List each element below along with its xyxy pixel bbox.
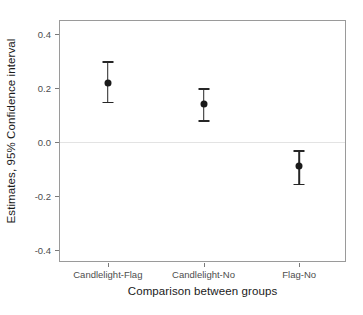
estimate-point (104, 79, 111, 86)
x-axis-title: Comparison between groups (59, 285, 346, 297)
x-tick-label: Flag-No (282, 269, 316, 280)
estimate-point (200, 101, 207, 108)
y-tick-label: 0.4 (11, 29, 51, 40)
estimate-point (296, 163, 303, 170)
y-tick-label: 0.2 (11, 83, 51, 94)
y-tick-label: -0.2 (11, 190, 51, 201)
y-tick-mark (55, 196, 59, 197)
x-tick-mark (204, 263, 205, 267)
x-tick-mark (299, 263, 300, 267)
y-tick-mark (55, 142, 59, 143)
y-tick-mark (55, 88, 59, 89)
x-tick-label: Candlelight-No (172, 269, 235, 280)
y-tick-mark (55, 250, 59, 251)
confidence-interval-chart: Estimates, 95% Confidence interval 0.40.… (0, 0, 363, 315)
errorbar-cap-lower (198, 120, 209, 122)
errorbar-cap-upper (294, 150, 305, 152)
y-tick-label: 0.0 (11, 137, 51, 148)
plot-panel: 0.40.20.0-0.2-0.4Candlelight-FlagCandlel… (59, 20, 346, 262)
y-tick-mark (55, 34, 59, 35)
x-tick-mark (108, 263, 109, 267)
errorbar-cap-upper (102, 61, 113, 63)
x-tick-label: Candlelight-Flag (73, 269, 142, 280)
errorbar-cap-lower (294, 184, 305, 186)
errorbar-cap-lower (102, 102, 113, 104)
zero-reference-gridline (60, 142, 345, 143)
y-tick-label: -0.4 (11, 244, 51, 255)
errorbar-cap-upper (198, 88, 209, 90)
